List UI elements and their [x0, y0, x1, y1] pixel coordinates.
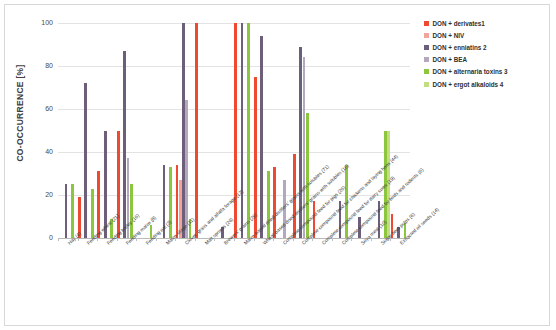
x-tick-mark	[58, 238, 59, 241]
y-tick-label: 40	[27, 148, 53, 155]
y-tick-label: 100	[27, 19, 53, 26]
bar-group	[117, 23, 137, 238]
bar-group	[78, 23, 98, 238]
bar	[267, 171, 270, 238]
bar	[84, 83, 87, 238]
bar-group	[175, 23, 195, 238]
legend-swatch-icon	[424, 57, 429, 62]
bar	[91, 189, 94, 238]
x-tick-mark	[312, 238, 313, 241]
y-axis-title: CO-OCCURRENCE [%]	[15, 53, 25, 173]
bar-group	[156, 23, 176, 238]
x-tick-mark	[351, 238, 352, 241]
x-tick-mark	[273, 238, 274, 241]
legend-label: DON + enniatins 2	[433, 44, 487, 51]
bar	[241, 23, 244, 238]
bar	[117, 131, 120, 239]
bar	[65, 184, 68, 238]
bar	[130, 184, 133, 238]
bar	[185, 100, 188, 238]
chart-container: CO-OCCURRENCE [%] DON + derivates1DON + …	[0, 0, 556, 330]
x-tick-mark	[78, 238, 79, 241]
x-tick-mark	[97, 238, 98, 241]
legend-label: DON + derivates1	[433, 20, 485, 27]
x-tick-mark	[254, 238, 255, 241]
legend-swatch-icon	[424, 69, 429, 74]
bar-group	[136, 23, 156, 238]
chart-legend: DON + derivates1DON + NIVDON + enniatins…	[424, 17, 552, 90]
bar-group	[254, 23, 274, 238]
bar	[303, 57, 306, 238]
legend-swatch-icon	[424, 82, 429, 87]
legend-label: DON + alternaria toxins 3	[433, 68, 508, 75]
y-tick-label: 80	[27, 62, 53, 69]
x-tick-mark	[332, 238, 333, 241]
legend-label: DON + BEA	[433, 56, 467, 63]
bar	[247, 23, 250, 238]
bar-group	[234, 23, 254, 238]
legend-label: DON + ergot alkaloids 4	[433, 81, 504, 88]
x-tick-mark	[117, 238, 118, 241]
legend-item[interactable]: DON + BEA	[424, 54, 552, 66]
bar	[169, 167, 172, 238]
bar	[260, 36, 263, 238]
bar-group	[58, 23, 78, 238]
legend-item[interactable]: DON + derivates1	[424, 17, 552, 29]
legend-swatch-icon	[424, 21, 429, 26]
x-tick-mark	[195, 238, 196, 241]
legend-item[interactable]: DON + enniatins 2	[424, 41, 552, 53]
legend-item[interactable]: DON + ergot alkaloids 4	[424, 78, 552, 90]
bar	[176, 165, 179, 238]
y-tick-label: 0	[27, 234, 53, 241]
bar	[71, 184, 74, 238]
legend-swatch-icon	[424, 45, 429, 50]
bar	[123, 51, 126, 238]
bar	[195, 23, 198, 238]
bar	[234, 23, 237, 238]
bar-group	[97, 23, 117, 238]
legend-swatch-icon	[424, 33, 429, 38]
bar-group	[390, 23, 410, 238]
y-tick-label: 20	[27, 191, 53, 198]
x-tick-mark	[156, 238, 157, 241]
legend-label: DON + NIV	[433, 32, 465, 39]
bar-group	[195, 23, 215, 238]
x-tick-mark	[390, 238, 391, 241]
x-tick-mark	[293, 238, 294, 241]
x-tick-mark	[214, 238, 215, 241]
legend-item[interactable]: DON + NIV	[424, 29, 552, 41]
bar	[182, 23, 185, 238]
x-tick-mark	[175, 238, 176, 241]
y-tick-label: 60	[27, 105, 53, 112]
x-tick-mark	[371, 238, 372, 241]
plot-area	[58, 23, 410, 238]
legend-item[interactable]: DON + alternaria toxins 3	[424, 66, 552, 78]
x-tick-mark	[136, 238, 137, 241]
x-tick-mark	[234, 238, 235, 241]
